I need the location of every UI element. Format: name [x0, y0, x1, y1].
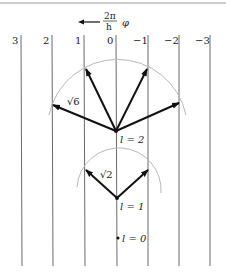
state-label-l1: l = 1: [120, 201, 144, 212]
column-label-minus2: −2: [164, 35, 179, 46]
arc-l1: [77, 148, 161, 193]
point-l0: [117, 237, 120, 240]
angular-momentum-diagram: 2π h φ 3 2 1 0 −1 −2 −3 √6 l = 2 √2 l = …: [0, 0, 226, 278]
column-lines: [21, 35, 210, 266]
axis-symbol: φ: [122, 17, 129, 28]
column-label-0: 0: [107, 35, 113, 46]
column-label-2: 2: [43, 35, 49, 46]
column-label-minus3: −3: [195, 35, 210, 46]
state-label-l0: l = 0: [122, 233, 147, 244]
column-label-minus1: −1: [133, 35, 148, 46]
state-label-l2: l = 2: [120, 134, 144, 145]
fraction-numerator: 2π: [104, 11, 116, 21]
fraction-denominator: h: [106, 22, 112, 32]
magnitude-label-l1: √2: [100, 169, 113, 180]
arrow-head-icon: [78, 20, 84, 25]
column-label-1: 1: [75, 35, 81, 46]
magnitude-label-l2: √6: [67, 96, 80, 107]
column-label-3: 3: [12, 35, 18, 46]
